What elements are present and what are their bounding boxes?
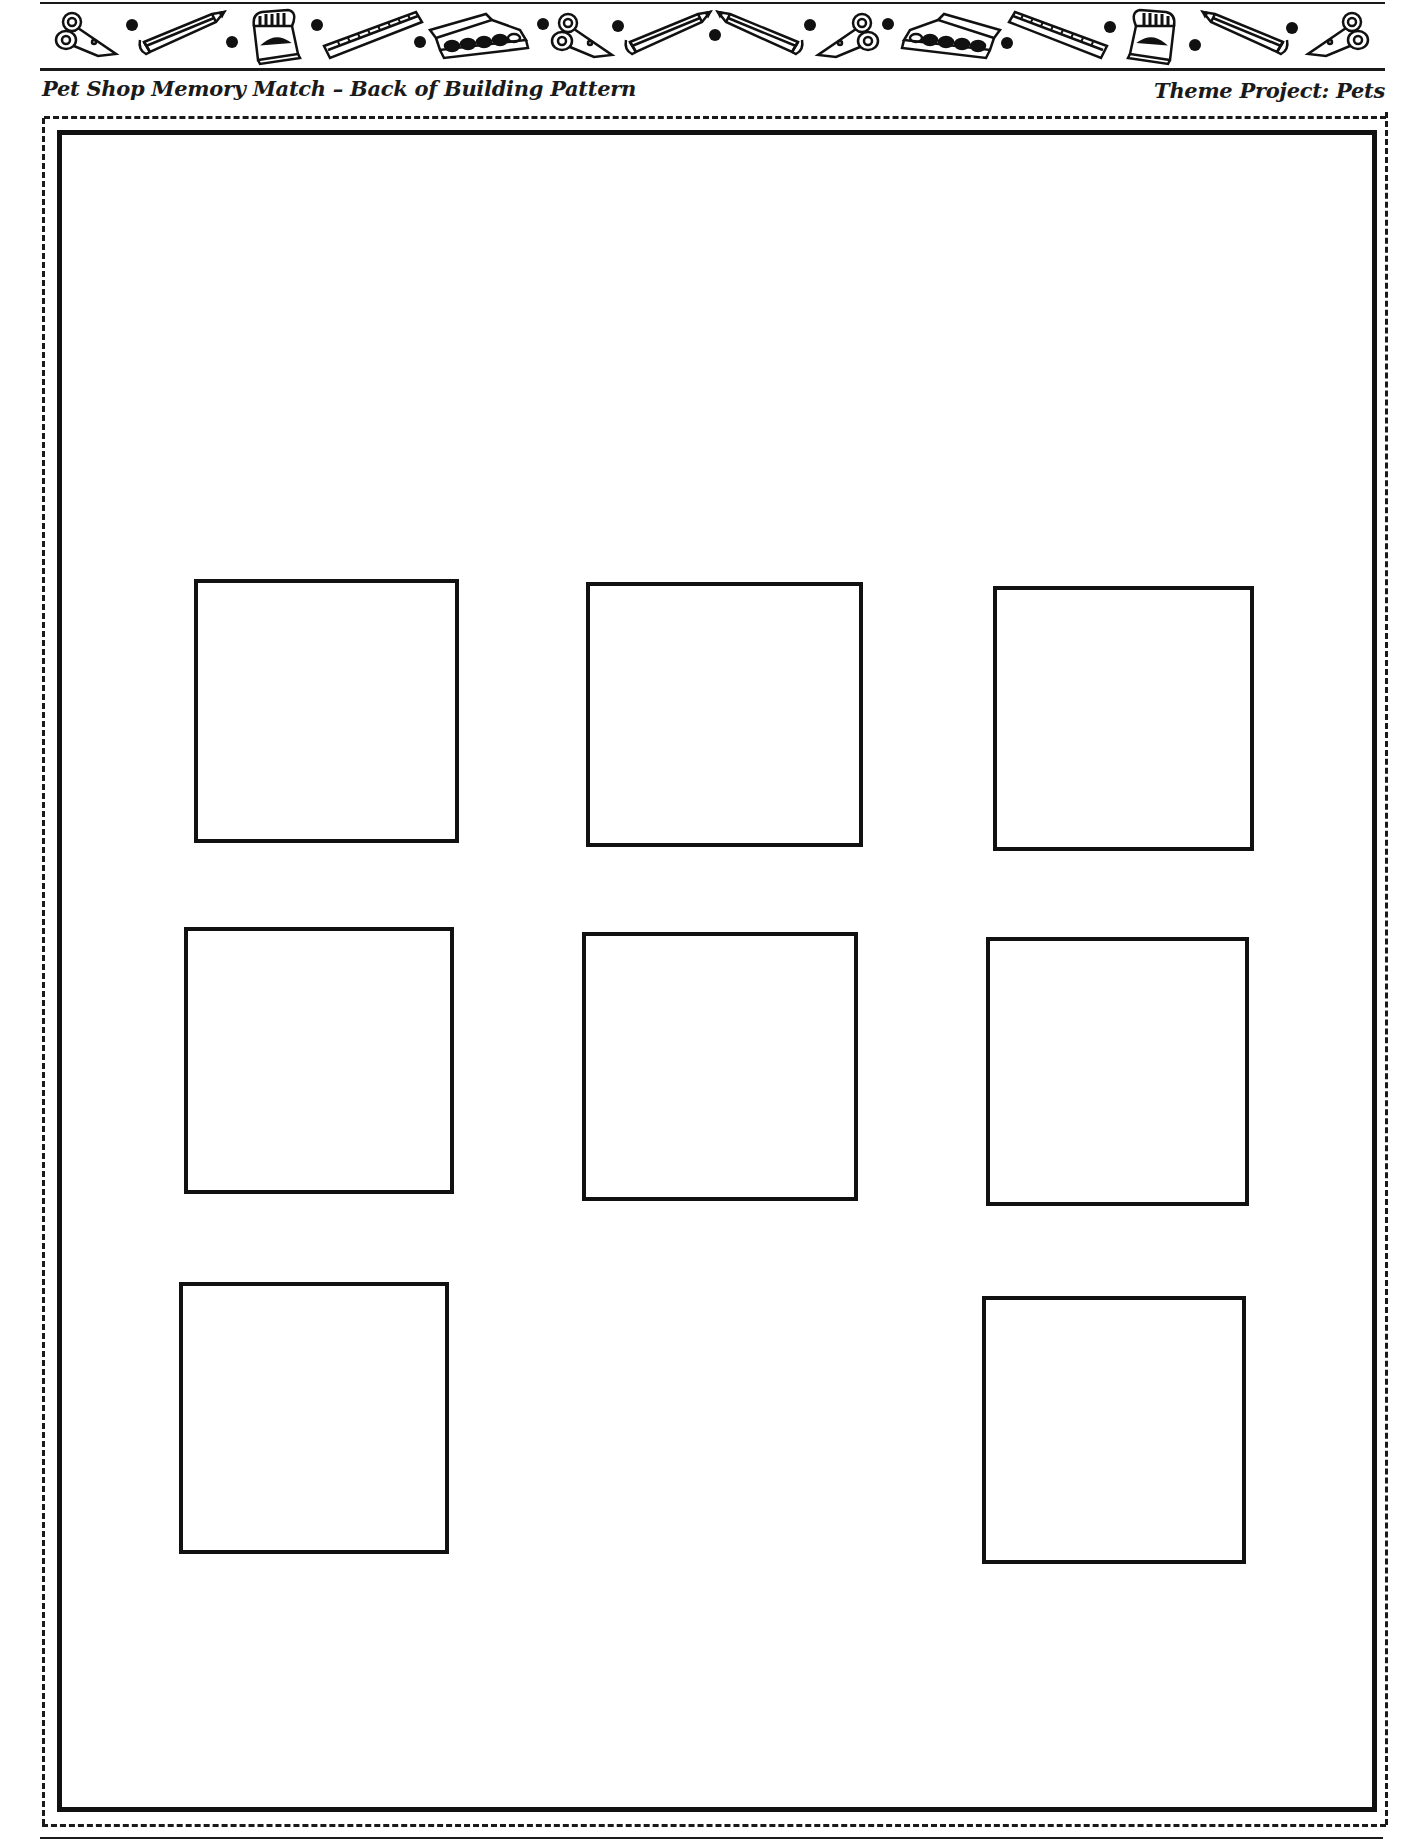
pencil-icon xyxy=(140,12,224,54)
dot xyxy=(311,19,323,31)
card-slot xyxy=(982,1296,1246,1564)
dot xyxy=(804,19,816,31)
dot xyxy=(882,18,894,30)
ruler-icon xyxy=(324,12,422,58)
theme-label: Theme Project: Pets xyxy=(1154,78,1385,103)
card-slot xyxy=(993,586,1254,851)
pencil-icon xyxy=(626,12,710,54)
dot xyxy=(1286,22,1298,34)
decorative-banner xyxy=(0,0,1421,75)
card-slot xyxy=(586,582,863,847)
dot xyxy=(126,19,138,31)
cut-line-right xyxy=(1385,112,1388,1825)
dot xyxy=(414,36,426,48)
dot xyxy=(226,36,238,48)
dot xyxy=(1189,39,1201,51)
cut-line-bottom xyxy=(42,1824,1386,1827)
dot xyxy=(537,18,549,30)
bottom-rule xyxy=(40,1837,1383,1839)
card-slot xyxy=(986,937,1249,1206)
cut-line-left xyxy=(42,118,45,1825)
dot xyxy=(1001,37,1013,49)
scissors-icon xyxy=(552,14,612,57)
dot xyxy=(612,20,624,32)
card-slot xyxy=(582,932,858,1201)
dot xyxy=(1104,21,1116,33)
dot xyxy=(709,29,721,41)
scissors-icon xyxy=(56,13,116,56)
page-title: Pet Shop Memory Match – Back of Building… xyxy=(42,76,636,101)
paint-box-icon xyxy=(430,14,528,58)
card-slot xyxy=(179,1282,449,1554)
cut-line-top xyxy=(44,116,1386,119)
crayon-box-icon xyxy=(254,10,300,64)
banner-art xyxy=(0,0,1421,75)
card-slot xyxy=(194,579,459,843)
card-slot xyxy=(184,927,454,1194)
